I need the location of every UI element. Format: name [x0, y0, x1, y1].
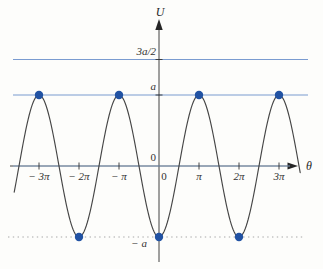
x-tick-label: − 3π	[28, 170, 50, 182]
y-tick-label: a	[151, 80, 157, 92]
x-tick-label: 0	[161, 170, 167, 182]
x-tick-label: 2π	[233, 170, 245, 182]
x-tick-label: − π	[111, 170, 127, 182]
maximum-point	[275, 91, 283, 99]
maximum-point	[35, 91, 43, 99]
y-axis-arrowhead-icon	[155, 19, 162, 30]
minimum-point	[235, 233, 243, 241]
y-tick-label: 3a/2	[135, 45, 156, 57]
y-tick-label: − a	[131, 237, 147, 249]
x-tick-label: − 2π	[68, 170, 90, 182]
x-tick-label: π	[196, 170, 202, 182]
maximum-point	[195, 91, 203, 99]
x-tick-label: 3π	[272, 170, 285, 182]
y-tick-label: 0	[151, 151, 157, 163]
potential-energy-figure: − 3π− 2π− π0π2π3π3a/2a0− a U θ	[0, 0, 323, 269]
potential-energy-plot: − 3π− 2π− π0π2π3π3a/2a0− a U θ	[0, 0, 323, 269]
plot-generated-layer: − 3π− 2π− π0π2π3π3a/2a0− a	[8, 19, 308, 262]
maximum-point	[115, 91, 123, 99]
minimum-point	[75, 233, 83, 241]
x-axis-label: θ	[306, 159, 312, 173]
y-axis-label: U	[156, 5, 166, 19]
minimum-point	[155, 233, 163, 241]
